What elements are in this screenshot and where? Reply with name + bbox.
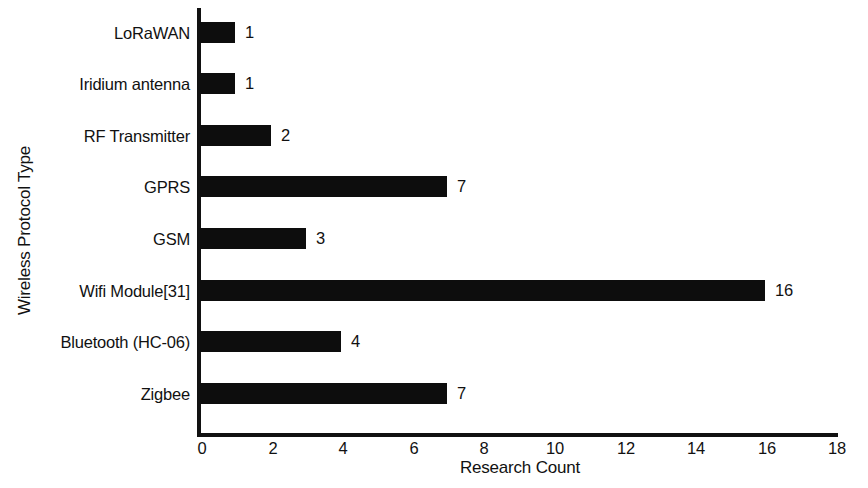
x-tick-label-16: 16 bbox=[747, 440, 787, 457]
category-label-zigbee: Zigbee bbox=[0, 386, 190, 403]
category-label-gsm: GSM bbox=[0, 231, 190, 248]
category-label-row: LoRaWAN bbox=[0, 25, 190, 42]
x-tick-label-8: 8 bbox=[464, 440, 504, 457]
category-label-row: RF Transmitter bbox=[0, 128, 190, 145]
bar-value-zigbee: 7 bbox=[457, 383, 466, 404]
bar-gsm bbox=[200, 228, 306, 249]
x-tick-label-4: 4 bbox=[323, 440, 363, 457]
bar-wifi-module bbox=[200, 280, 765, 301]
bar-lorawan bbox=[200, 22, 235, 43]
bar-zigbee bbox=[200, 383, 447, 404]
x-tick-label-18: 18 bbox=[817, 440, 857, 457]
x-axis-line bbox=[197, 433, 838, 437]
bar-value-iridium-antenna: 1 bbox=[245, 73, 254, 94]
x-tick-label-0: 0 bbox=[182, 440, 222, 457]
category-label-row: Zigbee bbox=[0, 386, 190, 403]
category-label-row: Bluetooth (HC-06) bbox=[0, 334, 190, 351]
x-tick-label-6: 6 bbox=[394, 440, 434, 457]
bar-value-wifi-module: 16 bbox=[775, 280, 793, 301]
bar-value-gsm: 3 bbox=[316, 228, 325, 249]
category-label-row: GSM bbox=[0, 231, 190, 248]
x-tick-label-10: 10 bbox=[535, 440, 575, 457]
bar-value-gprs: 7 bbox=[457, 176, 466, 197]
bar-value-bluetooth: 4 bbox=[351, 331, 360, 352]
category-label-gprs: GPRS bbox=[0, 179, 190, 196]
x-tick-label-14: 14 bbox=[676, 440, 716, 457]
bar-gprs bbox=[200, 176, 447, 197]
bar-value-rf-transmitter: 2 bbox=[281, 125, 290, 146]
category-label-rf-transmitter: RF Transmitter bbox=[0, 128, 190, 145]
bar-chart: Wireless Protocol Type LoRaWAN Iridium a… bbox=[0, 0, 868, 488]
category-label-row: GPRS bbox=[0, 179, 190, 196]
category-label-bluetooth: Bluetooth (HC-06) bbox=[0, 334, 190, 351]
x-tick-label-12: 12 bbox=[606, 440, 646, 457]
category-label-row: Iridium antenna bbox=[0, 76, 190, 93]
category-label-iridium-antenna: Iridium antenna bbox=[0, 76, 190, 93]
category-label-wifi-module: Wifi Module[31] bbox=[0, 283, 190, 300]
bar-rf-transmitter bbox=[200, 125, 271, 146]
bar-iridium-antenna bbox=[200, 73, 235, 94]
x-axis-title: Research Count bbox=[200, 459, 840, 476]
bar-value-lorawan: 1 bbox=[245, 22, 254, 43]
category-label-lorawan: LoRaWAN bbox=[0, 25, 190, 42]
x-tick-label-2: 2 bbox=[253, 440, 293, 457]
category-label-row: Wifi Module[31] bbox=[0, 283, 190, 300]
bar-bluetooth bbox=[200, 331, 341, 352]
